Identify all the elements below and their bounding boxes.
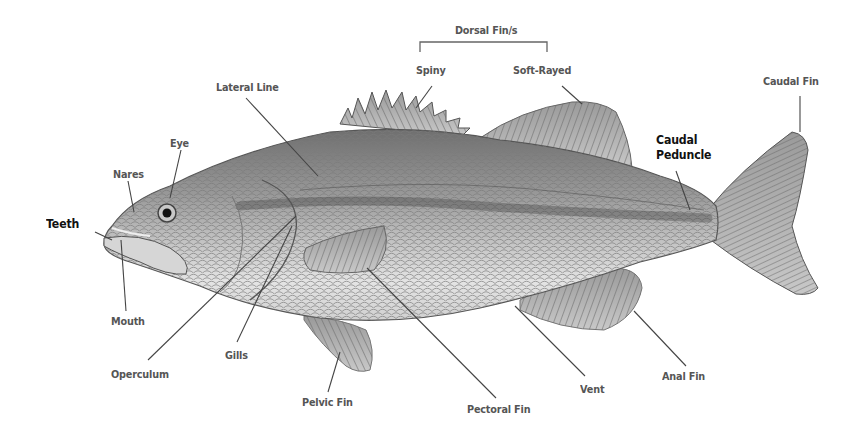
label-mouth: Mouth bbox=[111, 315, 145, 328]
label-spiny: Spiny bbox=[416, 64, 446, 77]
label-lateral-line: Lateral Line bbox=[216, 81, 279, 94]
caudal-fin bbox=[708, 132, 818, 294]
label-vent: Vent bbox=[580, 383, 604, 396]
pelvic-fin bbox=[304, 316, 372, 371]
label-pectoral-fin: Pectoral Fin bbox=[467, 403, 530, 416]
label-soft-rayed: Soft-Rayed bbox=[513, 64, 571, 77]
label-caudal-peduncle: Caudal Peduncle bbox=[656, 132, 711, 162]
label-caudal-fin: Caudal Fin bbox=[763, 75, 819, 88]
dorsal-fin-group-label: Dorsal Fin/s bbox=[455, 24, 517, 37]
label-caudal-peduncle-line1: Caudal bbox=[656, 132, 711, 147]
label-teeth: Teeth bbox=[46, 216, 79, 231]
label-anal-fin: Anal Fin bbox=[662, 370, 705, 383]
label-pelvic-fin: Pelvic Fin bbox=[302, 396, 353, 409]
label-operculum: Operculum bbox=[111, 368, 169, 381]
dorsal-bracket bbox=[420, 42, 547, 52]
label-nares: Nares bbox=[113, 168, 144, 181]
label-caudal-peduncle-line2: Peduncle bbox=[656, 147, 711, 162]
label-eye: Eye bbox=[170, 137, 189, 150]
label-gills: Gills bbox=[225, 349, 248, 362]
